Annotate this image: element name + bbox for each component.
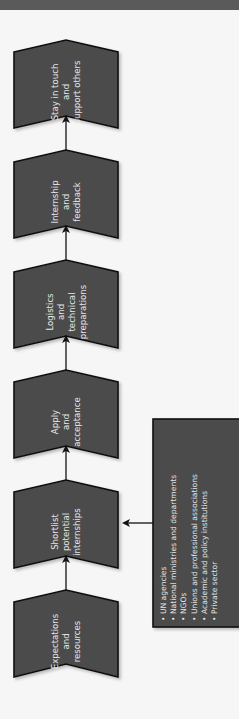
process-flow-diagram: ExpectationsandresourcesShortlistpotenti…	[0, 0, 239, 719]
sources-list-item: • UN agencies	[159, 567, 168, 621]
stage-box-5: Internshipandfeedback	[14, 150, 118, 238]
sources-list-item: • Academic and policy institutions	[200, 491, 209, 621]
sources-list-item: • Unions and professional associations	[190, 474, 199, 621]
stage-box-1: Expectationsandresources	[14, 590, 118, 677]
sources-box: • UN agencies• National ministries and d…	[153, 419, 239, 627]
sources-list-item: • Private sector	[210, 561, 219, 621]
sources-list-item: • National ministries and departments	[169, 475, 178, 621]
stage-box-4: Logisticsandtechnicalpreparations	[14, 260, 118, 348]
stage-box-2: Shortlistpotentialinternships	[14, 480, 118, 568]
stage-box-3: Applyandacceptance	[14, 370, 118, 458]
stage-label: Shortlistpotentialinternships	[50, 508, 82, 556]
sources-list-item: • NGOs	[179, 593, 188, 621]
stage-box-6: Stay in touchandsupport others	[14, 40, 118, 128]
